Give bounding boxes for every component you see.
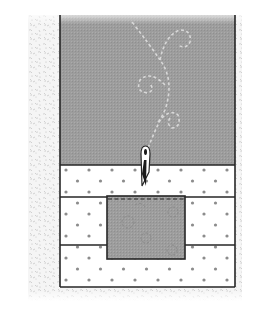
- center-square: [107, 196, 185, 259]
- quilt-diagram: [0, 0, 258, 311]
